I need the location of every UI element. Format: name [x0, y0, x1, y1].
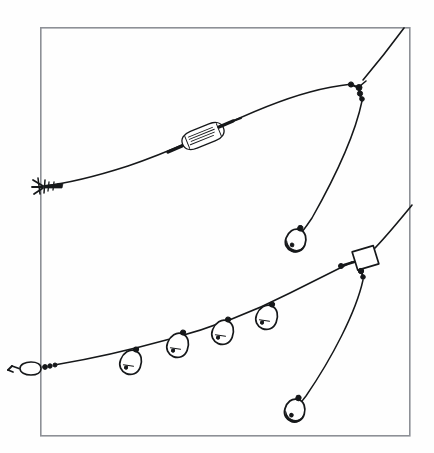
upper-mainline	[44, 139, 196, 186]
lower-dropper-line	[298, 280, 363, 406]
inline-barrel-float	[179, 119, 227, 152]
lower-junction-lead	[344, 262, 354, 265]
lower-line-clip-end	[8, 362, 57, 375]
upper-mainline-right	[214, 84, 352, 130]
upper-line-wrap-left	[168, 146, 182, 152]
lower-riser-line	[372, 205, 412, 251]
upper-riser-line	[363, 28, 404, 80]
upper-dropper-line	[299, 101, 362, 236]
upper-line-wrap-right-2	[233, 118, 241, 121]
lower-junction-bead-a	[339, 264, 344, 269]
dropper-weight-2	[164, 326, 194, 360]
image-border	[41, 28, 410, 436]
upper-rig	[32, 28, 404, 255]
figure-root: Two-rig line diagram Technical pen-and-i…	[0, 0, 434, 453]
upper-three-way-junction	[348, 81, 366, 101]
lower-box-junction	[352, 245, 379, 270]
lower-rig	[8, 205, 412, 424]
upper-line-frayed-end	[32, 178, 63, 194]
lower-mainline	[57, 262, 352, 365]
rig-diagram-svg	[0, 0, 434, 453]
